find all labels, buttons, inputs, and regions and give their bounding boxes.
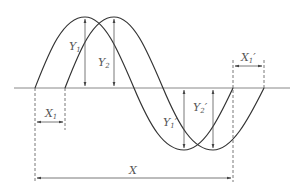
waveform-1 (35, 17, 233, 150)
label-x1: X1 (44, 107, 57, 121)
label-y1: Y1 (69, 40, 81, 54)
waveform-2 (65, 17, 264, 150)
wave-diagram: Y1 Y2 Y1′ Y2′ X1 X1′ X (0, 0, 299, 193)
label-y1-prime: Y1′ (163, 116, 178, 130)
label-y2: Y2 (98, 56, 110, 70)
label-y2-prime: Y2′ (193, 101, 208, 115)
label-x1-prime: X1′ (240, 51, 256, 65)
label-x: X (128, 164, 138, 177)
